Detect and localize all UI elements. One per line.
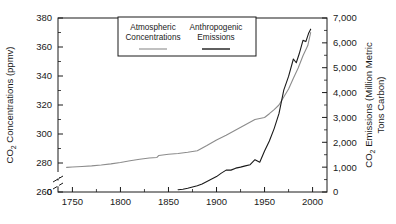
left-axis-title: CO2 Concentrations (ppmv) [4, 47, 17, 164]
legend-item-emissions-label-line2: Emissions [197, 33, 234, 42]
right-tick-label: 7,000 [333, 12, 357, 23]
x-tick-label: 1900 [206, 196, 227, 207]
legend-item-concentrations-label-line2: Concentrations [125, 33, 180, 42]
right-axis-title-prefix: CO [363, 153, 374, 167]
right-tick-label: 6,000 [333, 37, 357, 48]
left-tick-label: 360 [36, 41, 52, 52]
legend-item-emissions-label-line1: Anthropogenic [190, 23, 243, 32]
right-tick-label: 2,000 [333, 137, 357, 148]
right-tick-label: 5,000 [333, 62, 357, 73]
x-tick-label: 1750 [62, 196, 83, 207]
chart-legend: Atmospheric Concentrations Anthropogenic… [118, 17, 256, 56]
right-axis-title-line2: Tons Carbon) [375, 76, 386, 133]
legend-item-concentrations-label-line1: Atmospheric [130, 23, 176, 32]
left-tick-label: 280 [36, 157, 52, 168]
left-axis-title-suffix: Concentrations (ppmv) [4, 47, 15, 146]
right-tick-label: 3,000 [333, 112, 357, 123]
x-tick-label: 1850 [158, 196, 179, 207]
x-tick-label: 1950 [254, 196, 275, 207]
x-tick-label: 2000 [302, 196, 323, 207]
chart-canvas: 260280300320340360380 01,0002,0003,0004,… [0, 0, 396, 224]
left-tick-label: 380 [36, 12, 52, 23]
left-tick-label: 320 [36, 99, 52, 110]
right-tick-label: 4,000 [333, 87, 357, 98]
right-axis-title-line1: CO2 Emissions (Million Metric [363, 42, 376, 168]
left-axis-title-prefix: CO [4, 149, 15, 163]
right-tick-label: 1,000 [333, 162, 357, 173]
left-axis-zero-label: 0 [47, 186, 52, 197]
right-axis-title-suffix: Emissions (Million Metric [363, 42, 374, 149]
left-tick-label: 300 [36, 128, 52, 139]
right-tick-label: 0 [333, 186, 338, 197]
left-tick-label: 340 [36, 70, 52, 81]
co2-chart-figure: 260280300320340360380 01,0002,0003,0004,… [0, 0, 396, 224]
x-tick-label: 1800 [110, 196, 131, 207]
